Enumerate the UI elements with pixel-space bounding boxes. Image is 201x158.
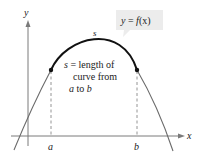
svg-text:curve from: curve from <box>73 71 117 82</box>
x-axis-label: x <box>186 130 192 141</box>
curve-s-label: s <box>93 28 97 38</box>
arc-length-diagram: y x a b s y = f(x) s = length of curve f… <box>0 0 201 158</box>
svg-text:s = length of: s = length of <box>64 59 115 70</box>
function-label: y = f(x) <box>120 15 151 27</box>
curve-left-tail <box>14 70 51 150</box>
y-axis-label: y <box>23 7 29 18</box>
curve-right-tail <box>137 70 173 151</box>
svg-text:a to b: a to b <box>69 83 92 94</box>
point-b <box>135 68 139 72</box>
y-axis-arrow-icon <box>26 20 31 27</box>
point-b-label: b <box>134 141 139 152</box>
point-a-label: a <box>48 141 53 152</box>
arc-length-annotation: s = length of curve from a to b <box>64 59 117 94</box>
point-a <box>49 68 53 72</box>
x-axis-arrow-icon <box>178 134 185 139</box>
